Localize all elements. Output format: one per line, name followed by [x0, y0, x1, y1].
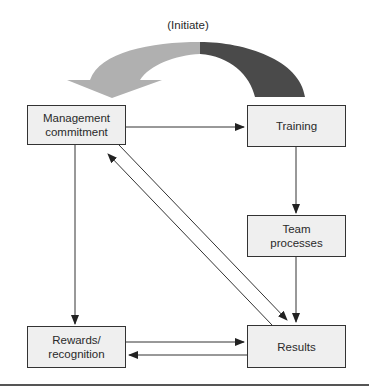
node-rewards-recognition: Rewards/ recognition	[27, 326, 126, 368]
node-training: Training	[247, 105, 346, 147]
node-label: Results	[277, 340, 315, 354]
node-team-processes: Team processes	[247, 215, 346, 257]
node-management-commitment: Management commitment	[27, 105, 126, 145]
node-label: Rewards/ recognition	[48, 333, 104, 361]
node-label: Training	[276, 119, 317, 133]
node-results: Results	[247, 325, 346, 368]
node-label: Team processes	[270, 222, 322, 250]
diagram: (Initiate) Management commitment Trainin…	[0, 0, 369, 392]
initiate-label: (Initiate)	[167, 19, 209, 31]
node-label: Management commitment	[43, 111, 110, 139]
initiate-arrow-light-head	[67, 42, 200, 98]
initiate-arrow-dark-tail	[200, 42, 305, 97]
